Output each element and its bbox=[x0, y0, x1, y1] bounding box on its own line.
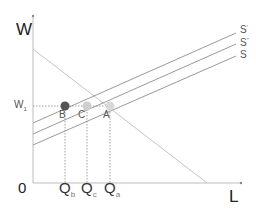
qb-label: Qb bbox=[59, 180, 75, 199]
qb-sub: b bbox=[71, 190, 75, 199]
qb-main: Q bbox=[59, 179, 71, 196]
supply-label-s: S bbox=[240, 50, 247, 60]
s-double-prime-sup: '' bbox=[247, 37, 249, 43]
origin-label: 0 bbox=[18, 180, 26, 195]
s-prime-main: S bbox=[240, 24, 247, 35]
wage-level-label: W1 bbox=[14, 100, 27, 112]
supply-label-s-double-prime: S'' bbox=[240, 37, 249, 48]
supply-curve-s-double-prime bbox=[33, 44, 236, 134]
x-axis-label: L bbox=[229, 188, 238, 205]
qc-main: Q bbox=[81, 179, 93, 196]
point-c-label: C bbox=[78, 110, 85, 120]
s-main: S bbox=[240, 49, 247, 60]
point-b-label: B bbox=[59, 110, 66, 120]
s-prime-sup: ' bbox=[247, 24, 248, 30]
qa-main: Q bbox=[104, 179, 116, 196]
supply-curve-s bbox=[33, 56, 236, 145]
qa-sub: a bbox=[116, 190, 120, 199]
x-axis-arrow-icon bbox=[240, 182, 242, 184]
qa-label: Qa bbox=[104, 180, 120, 199]
qc-sub: c bbox=[93, 190, 97, 199]
supply-label-s-prime: S' bbox=[240, 24, 248, 35]
labor-market-diagram bbox=[0, 0, 256, 210]
y-axis-label: W bbox=[16, 21, 32, 38]
y-axis-arrow-icon bbox=[32, 15, 34, 17]
s-double-prime-main: S bbox=[240, 37, 247, 48]
wage-level-sub: 1 bbox=[23, 106, 26, 112]
qc-label: Qc bbox=[81, 180, 97, 199]
point-a-label: A bbox=[103, 110, 110, 120]
